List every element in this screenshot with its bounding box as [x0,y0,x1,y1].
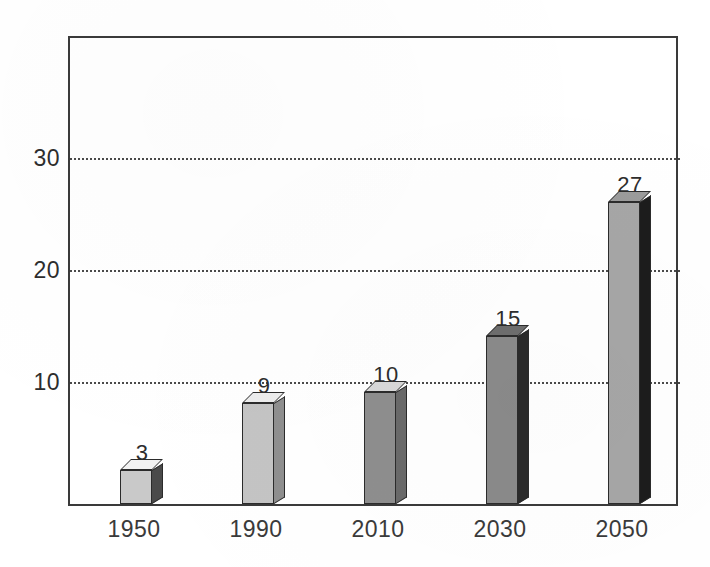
gridline-20 [70,270,680,272]
bar-group-2010[interactable]: 10 [364,392,407,504]
y-axis-tick-20: 20 [18,257,60,284]
bar-group-1990[interactable]: 9 [242,403,285,504]
x-axis-tick-2050: 2050 [562,516,682,543]
x-axis-tick-2030-label: 2030 [473,516,526,542]
x-axis-tick-2010-label: 2010 [351,516,404,542]
x-axis-tick-2050-label: 2050 [595,516,648,542]
x-axis-tick-2010: 2010 [318,516,438,543]
bar-side-2010 [396,385,407,504]
y-axis-tick-30-label: 30 [33,145,60,171]
chart-page: 10 20 30 3 9 10 15 [0,0,710,567]
y-axis-tick-10-label: 10 [33,369,60,395]
bar-side-1990 [274,396,285,504]
bar-front-1990 [242,403,274,504]
bar-front-2030 [486,336,518,504]
x-axis-tick-2030: 2030 [440,516,560,543]
y-axis-tick-20-label: 20 [33,257,60,283]
gridline-30 [70,158,680,160]
bar-front-1950 [120,470,152,504]
bar-side-1950 [152,463,163,504]
bar-front-2010 [364,392,396,504]
bar-side-2030 [518,329,529,504]
bar-front-2050 [608,202,640,504]
y-axis-tick-10: 10 [18,369,60,396]
bar-group-2050[interactable]: 27 [608,202,651,504]
bar-side-2050 [640,195,651,504]
bar-group-2030[interactable]: 15 [486,336,529,504]
x-axis-tick-1950-label: 1950 [107,516,160,542]
x-axis-tick-1990: 1990 [196,516,316,543]
x-axis-tick-1990-label: 1990 [229,516,282,542]
bar-group-1950[interactable]: 3 [120,470,163,504]
x-axis-tick-1950: 1950 [74,516,194,543]
y-axis-tick-30: 30 [18,145,60,172]
plot-area: 3 9 10 15 27 [68,36,678,506]
